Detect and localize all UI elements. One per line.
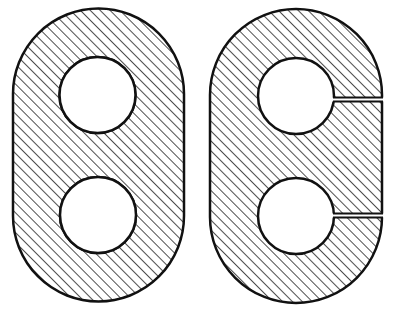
right-bottom-slit	[332, 214, 384, 218]
left-top-hole	[60, 57, 136, 133]
left-part	[13, 9, 184, 302]
left-bottom-hole	[60, 177, 136, 253]
right-part	[210, 9, 384, 303]
right-bottom-hole	[258, 178, 334, 254]
left-part-outline	[13, 9, 184, 302]
right-top-slit	[332, 98, 384, 102]
right-top-hole	[258, 58, 334, 134]
diagram-canvas	[0, 0, 393, 309]
right-part-outline	[210, 9, 382, 303]
